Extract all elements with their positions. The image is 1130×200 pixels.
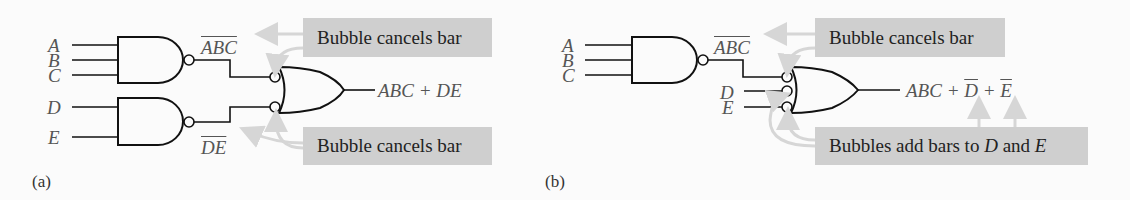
- callout-d: D: [984, 135, 998, 156]
- diagram-canvas: A B C D E ABC DE ABC + DE Bubble cancels…: [0, 0, 1130, 200]
- nand-gate-b: [632, 37, 697, 83]
- output-expression-b: ABC + D + E: [906, 81, 1012, 100]
- caption-b: (b): [545, 172, 565, 192]
- input-label-e: E: [722, 98, 734, 117]
- expr-plus: +: [978, 80, 1000, 101]
- output-expression-a: ABC + DE: [378, 81, 462, 100]
- callout-bubble-cancels-bottom-a: Bubble cancels bar: [303, 127, 492, 165]
- callout-bubble-cancels-top-b: Bubble cancels bar: [815, 18, 1005, 57]
- callout-text: Bubble cancels bar: [317, 135, 462, 157]
- callout-bubble-cancels-top-a: Bubble cancels bar: [303, 18, 492, 57]
- callout-text: Bubble cancels bar: [829, 27, 974, 49]
- nand-output-label-b: ABC: [714, 38, 750, 57]
- callout-text: Bubbles add bars to D and E: [829, 135, 1046, 157]
- nand2-output-label: DE: [201, 138, 226, 157]
- expr-prefix: ABC +: [906, 80, 964, 101]
- or-gate-a: [279, 67, 344, 113]
- nand-gate-2: [118, 98, 183, 145]
- input-label-c: C: [562, 66, 575, 85]
- input-label-e: E: [48, 128, 60, 147]
- callout-mid: and: [998, 135, 1035, 156]
- nand1-output-label: ABC: [201, 38, 237, 57]
- expr-d-bar: D: [964, 80, 978, 101]
- expr-e-bar: E: [1000, 80, 1012, 101]
- nand-gate-1: [118, 37, 183, 83]
- callout-e: E: [1035, 135, 1047, 156]
- input-label-d: D: [47, 98, 61, 117]
- caption-a: (a): [32, 172, 51, 192]
- callout-bubbles-add-bars-b: Bubbles add bars to D and E: [815, 127, 1088, 165]
- callout-text: Bubble cancels bar: [317, 27, 462, 49]
- or-gate-b: [791, 67, 858, 113]
- callout-prefix: Bubbles add bars to: [829, 135, 984, 156]
- input-label-c: C: [48, 66, 61, 85]
